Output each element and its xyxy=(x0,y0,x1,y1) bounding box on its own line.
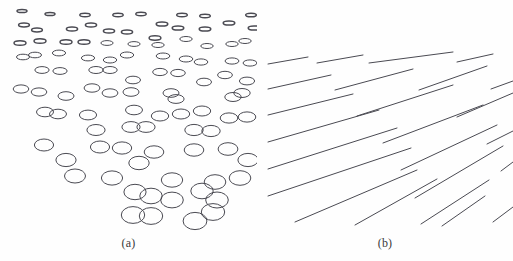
texture-ellipse xyxy=(246,13,257,17)
texture-ellipse xyxy=(199,27,211,31)
texture-ellipse xyxy=(185,124,203,135)
texture-ellipse xyxy=(101,41,113,46)
texture-ellipse xyxy=(34,39,46,44)
texture-ellipse xyxy=(201,204,224,221)
texture-ellipse xyxy=(223,21,235,25)
texture-ellipse xyxy=(112,142,131,154)
texture-ellipse xyxy=(81,55,94,61)
texture-ellipse xyxy=(200,14,211,17)
texture-line xyxy=(401,125,497,170)
texture-line xyxy=(487,131,513,144)
texture-line xyxy=(355,179,437,225)
texture-line xyxy=(491,81,513,89)
texture-ellipse xyxy=(225,58,239,64)
texture-ellipse xyxy=(218,143,238,156)
panel-a-caption: (a) xyxy=(0,236,257,251)
texture-line xyxy=(268,94,353,115)
texture-ellipse xyxy=(84,84,100,92)
texture-ellipse xyxy=(197,78,212,86)
texture-ellipse xyxy=(103,57,116,63)
texture-line xyxy=(419,66,487,90)
texture-ellipse xyxy=(238,112,256,122)
texture-ellipse xyxy=(226,42,238,47)
texture-ellipse xyxy=(129,156,149,169)
texture-line xyxy=(268,57,308,64)
texture-ellipse xyxy=(248,26,257,30)
texture-ellipse xyxy=(180,37,192,42)
texture-ellipse xyxy=(152,43,164,48)
texture-ellipse xyxy=(13,85,29,93)
texture-ellipse xyxy=(89,67,103,74)
texture-ellipse xyxy=(56,153,76,166)
texture-ellipse xyxy=(78,40,90,45)
texture-ellipse xyxy=(184,144,204,156)
texture-line xyxy=(268,148,411,196)
texture-ellipse xyxy=(14,41,26,46)
texture-ellipse xyxy=(17,54,30,60)
panel-b: (b) xyxy=(257,0,513,261)
texture-ellipse xyxy=(151,111,168,121)
texture-ellipse xyxy=(193,106,210,116)
texture-ellipse xyxy=(136,12,146,15)
texture-ellipse xyxy=(149,36,161,40)
texture-line xyxy=(493,207,513,222)
texture-ellipse xyxy=(172,109,189,119)
texture-line xyxy=(268,110,379,142)
texture-line xyxy=(457,54,493,62)
texture-ellipse xyxy=(102,89,118,97)
texture-ellipse xyxy=(120,52,133,58)
texture-ellipse xyxy=(171,69,186,76)
texture-ellipse xyxy=(194,59,208,65)
texture-line xyxy=(501,162,513,171)
texture-ellipse xyxy=(201,44,213,49)
texture-ellipse xyxy=(19,23,30,27)
texture-ellipse xyxy=(156,22,168,26)
texture-ellipse xyxy=(128,42,140,47)
texture-ellipse xyxy=(179,56,193,62)
texture-ellipse xyxy=(52,50,65,56)
texture-ellipse xyxy=(239,77,254,85)
panel-b-caption: (b) xyxy=(257,236,513,251)
ellipse-texture-canvas xyxy=(0,0,257,261)
texture-ellipse xyxy=(50,109,67,119)
texture-line xyxy=(268,128,397,169)
texture-ellipse xyxy=(60,40,72,45)
texture-line xyxy=(383,105,483,143)
texture-ellipse xyxy=(85,23,96,27)
texture-ellipse xyxy=(58,92,74,101)
texture-ellipse xyxy=(103,29,114,33)
texture-ellipse xyxy=(156,53,170,59)
texture-line xyxy=(369,52,453,63)
texture-ellipse xyxy=(238,153,257,166)
texture-ellipse xyxy=(139,208,162,225)
texture-line xyxy=(335,69,413,90)
texture-ellipse xyxy=(161,173,182,187)
texture-ellipse xyxy=(32,28,43,32)
texture-line xyxy=(317,55,363,63)
texture-ellipse xyxy=(202,125,220,136)
texture-ellipse xyxy=(172,26,184,30)
texture-ellipse xyxy=(239,39,251,44)
texture-ellipse xyxy=(65,169,86,183)
texture-ellipse xyxy=(101,171,122,185)
texture-line xyxy=(442,196,485,226)
texture-ellipse xyxy=(29,52,42,58)
texture-line xyxy=(268,75,331,89)
texture-ellipse xyxy=(17,9,27,12)
texture-line xyxy=(357,85,453,116)
texture-ellipse xyxy=(34,139,53,151)
texture-ellipse xyxy=(229,171,251,186)
texture-ellipse xyxy=(90,141,109,153)
texture-line xyxy=(415,146,503,198)
texture-line xyxy=(295,170,417,222)
texture-ellipse xyxy=(206,192,229,208)
texture-ellipse xyxy=(37,107,54,117)
texture-ellipse xyxy=(191,183,213,199)
texture-ellipse xyxy=(140,188,162,204)
texture-ellipse xyxy=(79,110,96,120)
texture-ellipse xyxy=(123,88,139,97)
texture-ellipse xyxy=(161,192,184,208)
texture-ellipse xyxy=(218,71,233,78)
texture-ellipse xyxy=(87,125,105,136)
texture-ellipse xyxy=(177,13,188,16)
